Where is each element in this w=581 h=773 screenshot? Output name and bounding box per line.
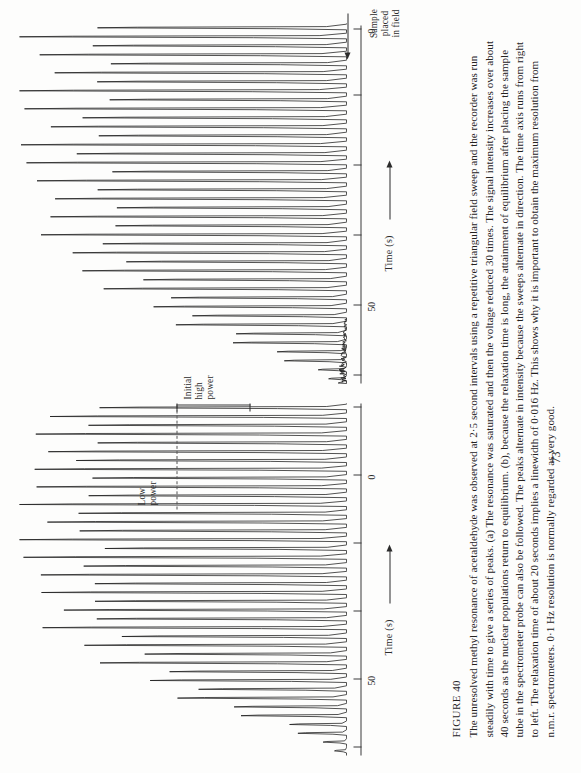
annotation-line: high [193,382,203,399]
axis-line-panel-a [360,25,361,383]
initial-high-power-bracket-bottom [249,403,250,411]
axis-title-panel-a: Time (s) [382,235,393,271]
sample-placed-arrow-head [344,52,350,59]
axis-tick [353,406,361,407]
annotation-line: Sample [368,8,378,37]
page-number: 73 [548,451,563,463]
sample-placed-arrow-line [347,13,348,55]
initial-high-power-bracket-rule [176,404,250,405]
annotation-line: Low [136,487,146,505]
nmr-trace-panel-b [18,403,348,755]
axis-tick [353,474,361,475]
annotation-sample-placed-in-field: Sample placed in field [368,0,401,55]
axis-title-panel-b: Time (s) [382,619,393,655]
annotation-line: power [147,481,157,505]
axis-line-panel-b [360,403,361,755]
axis-tick [353,374,361,375]
annotation-line: power [204,375,214,399]
figure-label: FIGURE 40 [448,37,463,737]
axis-tick [353,542,361,543]
axis-tick [353,610,361,611]
annotation-line: placed [379,10,389,35]
annotation-line: Initial [182,375,192,399]
scanned-page: 50 0 Time (s) 50 0 Time (s) Sample pl [0,0,581,773]
axis-tick [353,164,361,165]
axis-direction-arrow-head-b [386,544,392,551]
axis-direction-arrow-head-a [386,160,392,167]
axis-direction-arrow-line-b [389,549,390,603]
annotation-line: in field [390,9,400,37]
axis-tick [353,746,361,747]
axis-tick-label-50-panel-b: 50 [365,675,376,685]
nmr-trace-panel-a [18,23,348,383]
axis-tick-label-0-panel-b: 0 [365,474,376,479]
axis-tick [353,28,361,29]
axis-tick [353,234,361,235]
figure-caption-text: The unresolved methyl resonance of aceta… [465,37,557,737]
initial-high-power-bracket-top [176,403,177,411]
annotation-low-power: Low power [136,459,158,505]
axis-direction-arrow-line-a [389,165,390,219]
annotation-initial-high-power: Initial high power [182,357,215,399]
power-divider-dashed-line [176,405,177,509]
rotated-page-content: 50 0 Time (s) 50 0 Time (s) Sample pl [0,0,581,773]
figure-40-plot: 50 0 Time (s) 50 0 Time (s) Sample pl [8,15,428,755]
axis-tick [353,94,361,95]
axis-tick-label-50-panel-a: 50 [365,301,376,311]
axis-tick [353,678,361,679]
axis-tick [353,304,361,305]
figure-caption: FIGURE 40 The unresolved methyl resonanc… [448,37,557,737]
